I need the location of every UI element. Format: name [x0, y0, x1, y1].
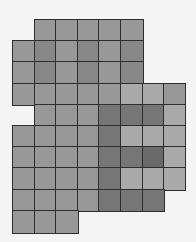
grid-cell — [98, 189, 122, 212]
grid-cell — [34, 125, 57, 148]
grid-cell — [98, 146, 122, 169]
grid-cell — [163, 83, 186, 106]
grid-cell — [98, 40, 122, 63]
grid-cell — [12, 167, 36, 191]
grid-cell — [77, 167, 100, 191]
grid-cell — [120, 61, 144, 85]
grid-cell — [142, 146, 165, 169]
grid-cell — [55, 40, 79, 63]
grid-cell — [34, 146, 57, 169]
grid-cell — [12, 61, 36, 85]
grid-cell — [120, 125, 144, 148]
grid-cell — [77, 40, 100, 63]
grid-cell — [98, 19, 122, 42]
grid-cell — [34, 83, 57, 106]
grid-cell — [142, 125, 165, 148]
grid-cell — [55, 19, 79, 42]
grid-cell — [12, 210, 36, 234]
grid-cell — [34, 40, 57, 63]
grid-cell — [163, 146, 186, 169]
grid-cell — [34, 19, 57, 42]
grid-cell — [77, 104, 100, 127]
grid-cell — [142, 104, 165, 127]
grid-cell — [142, 189, 165, 212]
grid-cell — [34, 189, 57, 212]
grid-cell — [163, 167, 186, 191]
shaded-grid — [0, 0, 196, 242]
grid-cell — [77, 146, 100, 169]
grid-cell — [55, 189, 79, 212]
grid-cell — [55, 125, 79, 148]
grid-cell — [120, 40, 144, 63]
grid-cell — [120, 83, 144, 106]
grid-cell — [77, 189, 100, 212]
grid-cell — [120, 167, 144, 191]
grid-cell — [98, 104, 122, 127]
grid-cell — [77, 125, 100, 148]
grid-cell — [12, 83, 36, 106]
grid-cell — [55, 61, 79, 85]
grid-cell — [98, 83, 122, 106]
grid-cell — [98, 125, 122, 148]
grid-cell — [34, 61, 57, 85]
grid-cell — [77, 61, 100, 85]
grid-cell — [77, 83, 100, 106]
grid-cell — [163, 125, 186, 148]
grid-cell — [142, 167, 165, 191]
grid-cell — [12, 146, 36, 169]
grid-cell — [120, 19, 144, 42]
grid-cell — [55, 210, 79, 234]
grid-cell — [98, 167, 122, 191]
grid-cell — [34, 104, 57, 127]
grid-cell — [77, 19, 100, 42]
grid-cell — [120, 189, 144, 212]
grid-cell — [142, 83, 165, 106]
grid-cell — [55, 146, 79, 169]
grid-cell — [120, 104, 144, 127]
grid-cell — [55, 83, 79, 106]
grid-cell — [12, 189, 36, 212]
grid-cell — [98, 61, 122, 85]
grid-cell — [55, 104, 79, 127]
grid-cell — [12, 40, 36, 63]
grid-cell — [120, 146, 144, 169]
grid-cell — [55, 167, 79, 191]
grid-cell — [163, 104, 186, 127]
grid-cell — [34, 210, 57, 234]
grid-cell — [12, 125, 36, 148]
grid-cell — [34, 167, 57, 191]
